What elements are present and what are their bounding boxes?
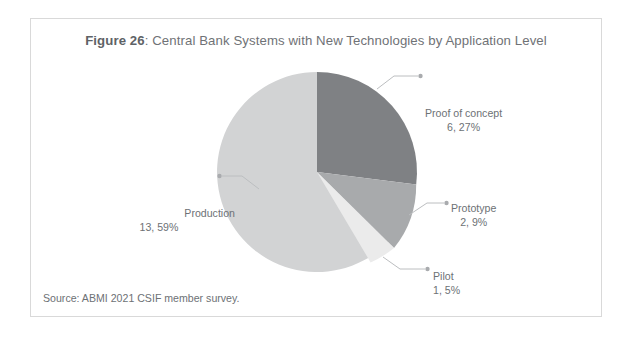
pie-label-pilot-name: Pilot (433, 270, 460, 284)
pie-chart: Proof of concept 6, 27% Prototype 2, 9% … (31, 19, 603, 318)
pie-label-prototype-name: Prototype (451, 202, 496, 216)
pie-label-production: Production 13, 59% (83, 207, 235, 234)
leader-line-proof-of-concept (377, 74, 423, 89)
pie-label-pilot-value: 1, 5% (433, 284, 460, 298)
pie-slice-proof-of-concept[interactable] (317, 72, 417, 185)
leader-line-prototype (409, 201, 449, 215)
pie-label-production-value: 13, 59% (83, 221, 235, 235)
pie-label-proof-of-concept: Proof of concept 6, 27% (425, 107, 502, 134)
pie-label-proof-of-concept-value: 6, 27% (425, 121, 502, 135)
leader-line-pilot (383, 257, 430, 271)
source-note: Source: ABMI 2021 CSIF member survey. (43, 292, 239, 304)
pie-label-prototype: Prototype 2, 9% (451, 202, 496, 229)
pie-label-prototype-value: 2, 9% (451, 216, 496, 230)
pie-label-pilot: Pilot 1, 5% (433, 270, 460, 297)
pie-label-production-name: Production (83, 207, 235, 221)
figure-card: Figure 26: Central Bank Systems with New… (30, 18, 602, 317)
pie-label-proof-of-concept-name: Proof of concept (425, 107, 502, 121)
pie-chart-svg (31, 19, 603, 318)
